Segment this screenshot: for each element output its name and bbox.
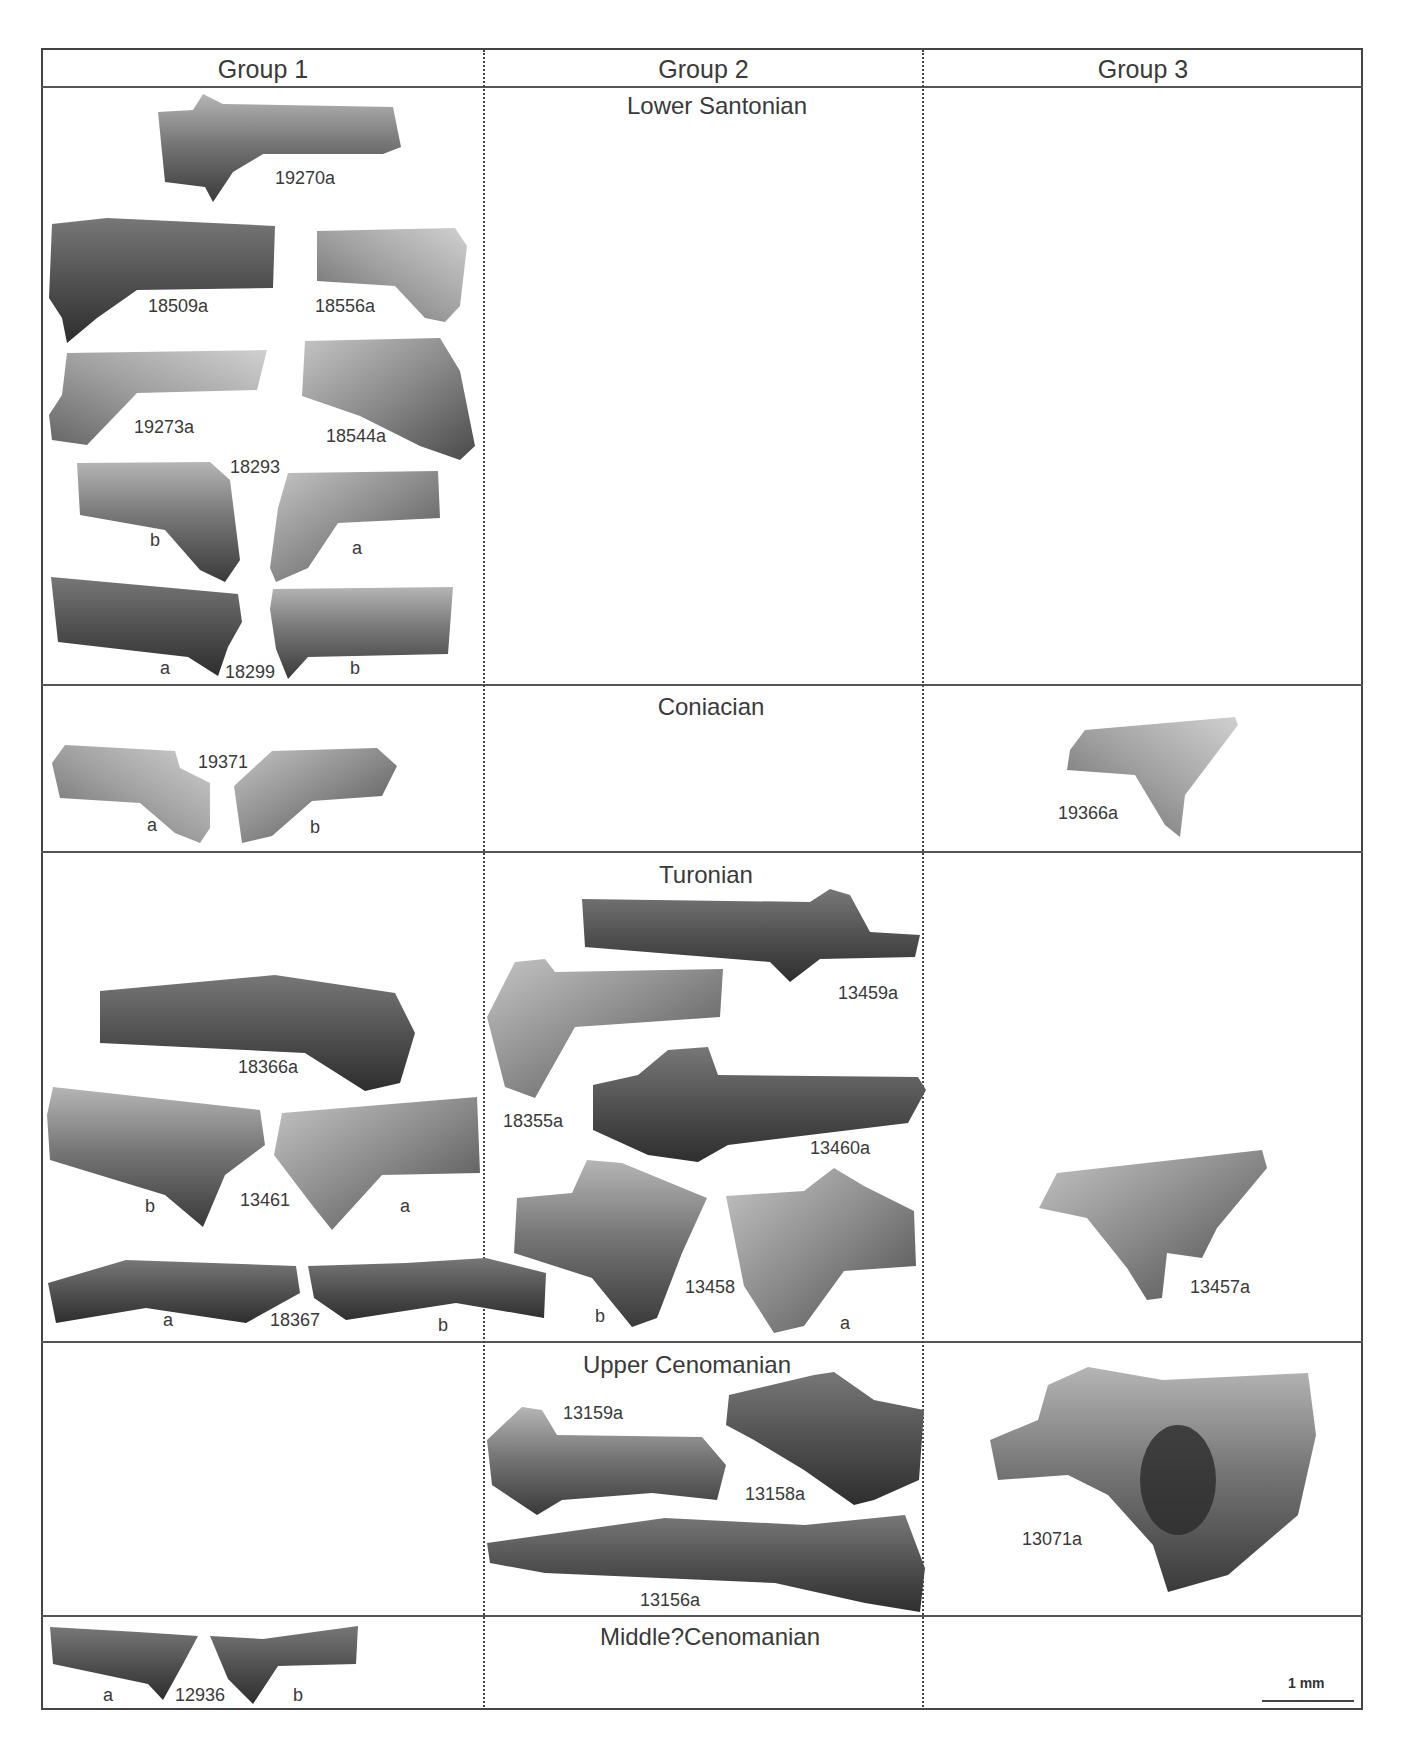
view-label-b: b: [350, 658, 360, 679]
specimen-label: 18366a: [238, 1057, 298, 1078]
fossil-image-13461-b: [45, 1085, 266, 1227]
view-label-b: b: [438, 1315, 448, 1336]
fossil-image-18293-a: [268, 468, 442, 582]
specimen-label: 18544a: [326, 426, 386, 447]
fossil-image-18299-b: [268, 579, 458, 680]
column-header-group-3: Group 3: [924, 52, 1362, 86]
view-label-a: a: [352, 538, 362, 559]
view-label-a: a: [147, 815, 157, 836]
fossil-image-13458-a: [724, 1166, 917, 1333]
view-label-b: b: [293, 1685, 303, 1706]
stage-lower-santonian: Lower Santonian: [627, 92, 807, 120]
specimen-label: 18367: [270, 1310, 320, 1331]
view-label-a: a: [163, 1310, 173, 1331]
stage-coniacian: Coniacian: [658, 693, 765, 721]
specimen-label: 12936: [175, 1685, 225, 1706]
specimen-label: 13459a: [838, 983, 898, 1004]
view-label-b: b: [150, 530, 160, 551]
fossil-image-18299-a: [48, 572, 243, 677]
row-divider-turonian-upper-cenomanian: [41, 1341, 1363, 1343]
specimen-label: 13071a: [1022, 1529, 1082, 1550]
specimen-label: 18299: [225, 662, 275, 683]
fossil-image-13156a: [485, 1513, 928, 1612]
specimen-label: 18355a: [503, 1111, 563, 1132]
view-label-a: a: [840, 1313, 850, 1334]
view-label-b: b: [310, 817, 320, 838]
view-label-a: a: [160, 658, 170, 679]
specimen-label: 13156a: [640, 1590, 700, 1611]
specimen-label: 13457a: [1190, 1277, 1250, 1298]
specimen-label: 19270a: [275, 168, 335, 189]
row-divider-upper-middle-cenomanian: [41, 1615, 1363, 1617]
row-divider-coniacian-turonian: [41, 851, 1363, 853]
specimen-label: 13461: [240, 1190, 290, 1211]
row-divider-santonian-coniacian: [41, 684, 1363, 686]
view-label-b: b: [595, 1306, 605, 1327]
stage-turonian: Turonian: [659, 861, 753, 889]
scale-bar: [1262, 1700, 1354, 1702]
specimen-label: 18556a: [315, 296, 375, 317]
specimen-label: 19366a: [1058, 803, 1118, 824]
stage-middle-cenomanian: Middle?Cenomanian: [600, 1623, 820, 1651]
view-label-a: a: [103, 1685, 113, 1706]
fossil-image-18367-a: [46, 1258, 302, 1327]
fossil-image-13071a: [988, 1365, 1318, 1592]
fossil-image-13460a: [588, 1045, 928, 1162]
view-label-b: b: [145, 1196, 155, 1217]
specimen-label: 13458: [685, 1277, 735, 1298]
fossil-image-19371-a: [50, 743, 215, 843]
specimen-label: 13460a: [810, 1138, 870, 1159]
fossil-image-13458-b: [512, 1158, 712, 1327]
column-header-group-1: Group 1: [43, 52, 483, 86]
specimen-label: 18509a: [148, 296, 208, 317]
specimen-label: 13159a: [563, 1403, 623, 1424]
specimen-label: 13158a: [745, 1484, 805, 1505]
header-divider: [41, 86, 1363, 88]
fossil-image-13461-a: [272, 1095, 480, 1230]
scale-bar-label: 1 mm: [1288, 1675, 1325, 1691]
specimen-label: 19371: [198, 752, 248, 773]
specimen-label: 19273a: [134, 417, 194, 438]
fossil-image-18293-b: [75, 460, 242, 583]
view-label-a: a: [400, 1196, 410, 1217]
column-header-group-2: Group 2: [485, 52, 922, 86]
fossil-image-12936-b: [208, 1624, 360, 1704]
fossil-image-18509a: [47, 218, 277, 344]
